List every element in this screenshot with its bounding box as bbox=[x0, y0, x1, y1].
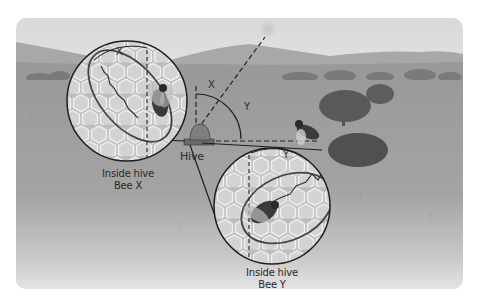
bee-x-caption-line2: Bee X bbox=[92, 180, 164, 192]
angle-x-label: X bbox=[208, 79, 215, 91]
bee-x-caption-line1: Inside hive bbox=[92, 168, 164, 180]
inset-x-angle-label: X bbox=[116, 46, 123, 58]
food-shrub bbox=[328, 133, 388, 167]
bee-y-caption: Inside hive Bee Y bbox=[236, 267, 308, 291]
inset-y-angle-label: Y bbox=[283, 149, 289, 161]
bee-x-caption: Inside hive Bee X bbox=[92, 168, 164, 192]
sun-icon bbox=[260, 21, 276, 37]
angle-y-label: Y bbox=[244, 101, 250, 113]
waggle-dance-illustration bbox=[0, 0, 479, 306]
hive-label: Hive bbox=[180, 151, 204, 163]
bee-y-caption-line2: Bee Y bbox=[236, 279, 308, 291]
bee-y-caption-line1: Inside hive bbox=[236, 267, 308, 279]
landscape bbox=[16, 18, 463, 289]
